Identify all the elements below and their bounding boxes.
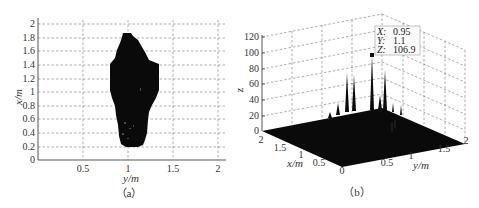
- svg-text:1.6: 1.6: [23, 45, 36, 56]
- svg-text:40: 40: [249, 94, 259, 105]
- panel-a-caption: （a）: [116, 187, 143, 199]
- svg-text:1.5: 1.5: [167, 163, 180, 174]
- svg-text:1.5: 1.5: [438, 143, 451, 154]
- svg-text:0.2: 0.2: [23, 141, 36, 152]
- svg-text:2: 2: [30, 18, 35, 29]
- panel-b-plot: [262, 14, 465, 167]
- svg-text:0: 0: [30, 154, 35, 165]
- svg-text:1.8: 1.8: [23, 32, 36, 43]
- svg-text:1.2: 1.2: [23, 73, 36, 84]
- panel-a-xticks: 0.5 1 1.5 2: [77, 163, 221, 174]
- svg-text:0.5: 0.5: [313, 157, 326, 168]
- svg-text:20: 20: [249, 110, 259, 121]
- panel-a-xlabel: y/m: [122, 172, 139, 184]
- datatip: X: 0.95 Y: 1.1 Z: 106.9: [375, 26, 420, 55]
- panel-b-ylabel: y/m: [412, 159, 429, 171]
- panel-a-ylabel: x/m: [12, 89, 24, 106]
- svg-text:0.8: 0.8: [23, 100, 36, 111]
- panel-b-caption: （b）: [343, 186, 371, 198]
- svg-text:80: 80: [249, 63, 259, 74]
- svg-text:2: 2: [464, 135, 469, 146]
- svg-text:2: 2: [259, 134, 264, 145]
- panel-a-plot: [38, 18, 226, 160]
- svg-text:0.4: 0.4: [23, 127, 36, 138]
- svg-text:1: 1: [30, 86, 35, 97]
- svg-text:120: 120: [244, 31, 259, 42]
- svg-text:1.4: 1.4: [23, 59, 36, 70]
- svg-text:0.5: 0.5: [381, 157, 394, 168]
- svg-text:0.6: 0.6: [23, 113, 36, 124]
- svg-text:100: 100: [244, 47, 259, 58]
- svg-text:Z:: Z:: [377, 44, 386, 55]
- panel-a-yticks: 0 0.2 0.4 0.6 0.8 1 1.2 1.4 1.6 1.8 2: [23, 18, 36, 165]
- surface-peaks: [328, 55, 402, 118]
- svg-text:0.5: 0.5: [77, 163, 90, 174]
- svg-text:1.5: 1.5: [274, 142, 287, 153]
- occupancy-region: [110, 33, 159, 147]
- svg-text:60: 60: [249, 78, 259, 89]
- panel-b-zlabel: z: [233, 87, 245, 92]
- datatip-marker[interactable]: [370, 53, 374, 57]
- svg-text:106.9: 106.9: [393, 44, 416, 55]
- panel-b-xlabel: x/m: [286, 157, 303, 169]
- panel-b-zticks: 0 20 40 60 80 100 120: [244, 31, 259, 136]
- svg-text:2: 2: [216, 163, 221, 174]
- svg-text:0: 0: [340, 165, 345, 176]
